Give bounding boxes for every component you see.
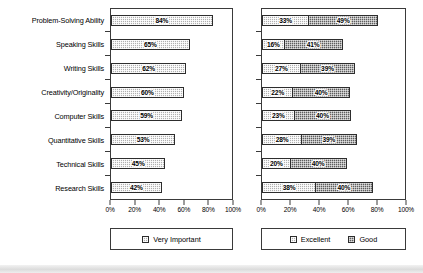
bar: 45%	[111, 158, 165, 169]
legend-excellent-good: Excellent Good	[261, 228, 406, 250]
bar-segment-excellent: 38%	[262, 182, 316, 193]
bar-segment-good: 39%	[301, 134, 357, 145]
x-axis: 0%20%40%60%80%100%	[261, 200, 406, 218]
legend-swatch-icon	[142, 236, 149, 243]
bar-row: 23%40%	[262, 104, 405, 128]
stacked-bar: 22%40%	[262, 87, 405, 98]
x-axis-tick	[348, 200, 349, 205]
bar-value-label: 49%	[337, 17, 350, 24]
x-axis-tick	[406, 200, 407, 205]
x-axis-tick	[290, 200, 291, 205]
category-label: Problem-Solving Ability	[4, 8, 108, 32]
bar: 62%	[111, 63, 186, 74]
x-axis-tick	[110, 200, 111, 205]
legend-item-good: Good	[348, 235, 377, 244]
bar: 65%	[111, 39, 190, 50]
bar-value-label: 62%	[142, 65, 155, 72]
bar-row: 33%49%	[262, 9, 405, 33]
bar-segment-excellent: 16%	[262, 39, 285, 50]
x-axis-tick-label: 100%	[225, 206, 241, 213]
stacked-bar: 38%40%	[262, 182, 405, 193]
category-label: Technical Skills	[4, 152, 108, 176]
category-label: Writing Skills	[4, 56, 108, 80]
footer-strip	[0, 265, 423, 273]
bar-value-label: 40%	[315, 89, 328, 96]
bar-segment-good: 40%	[290, 158, 347, 169]
x-axis-tick	[261, 200, 262, 205]
bar-rows: 84%65%62%60%59%53%45%42%	[111, 9, 232, 199]
bar: 59%	[111, 110, 182, 121]
bar-value-label: 40%	[312, 160, 325, 167]
legend-label: Very Important	[153, 235, 200, 244]
chart-panel-excellent-good: 33%49%16%41%27%39%22%40%23%40%28%39%20%4…	[243, 0, 423, 265]
bar-value-label: 42%	[130, 184, 143, 191]
bar-segment-excellent: 28%	[262, 134, 302, 145]
bar-value-label: 20%	[270, 160, 283, 167]
x-axis-tick	[377, 200, 378, 205]
charts-container: Problem-Solving Ability Speaking Skills …	[0, 0, 423, 265]
bar-segment-good: 40%	[292, 87, 349, 98]
x-axis-tick	[134, 200, 135, 205]
chart-panel-very-important: Problem-Solving Ability Speaking Skills …	[0, 0, 243, 265]
x-axis-tick-label: 80%	[371, 206, 384, 213]
category-label: Creativity/Originality	[4, 80, 108, 104]
legend-item-excellent: Excellent	[290, 235, 331, 244]
x-axis-tick	[208, 200, 209, 205]
legend-swatch-icon	[348, 236, 355, 243]
bar-value-label: 28%	[276, 136, 289, 143]
stacked-bar: 33%49%	[262, 15, 405, 26]
bar-row: 59%	[111, 104, 232, 128]
stacked-bar: 16%41%	[262, 39, 405, 50]
bar-value-label: 40%	[338, 184, 351, 191]
bar-value-label: 40%	[316, 112, 329, 119]
legend-label: Excellent	[301, 235, 331, 244]
bar-segment-good: 41%	[284, 39, 343, 50]
bar-value-label: 60%	[141, 89, 154, 96]
bar-row: 62%	[111, 57, 232, 81]
x-axis-tick-label: 20%	[128, 206, 141, 213]
legend-swatch-icon	[290, 236, 297, 243]
bar-row: 38%40%	[262, 175, 405, 199]
x-axis-tick	[233, 200, 234, 205]
bar-segment-excellent: 27%	[262, 63, 301, 74]
x-axis-tick-label: 40%	[313, 206, 326, 213]
bar-value-label: 59%	[140, 112, 153, 119]
x-axis-tick-label: 80%	[202, 206, 215, 213]
bar-row: 84%	[111, 9, 232, 33]
category-label: Quantitative Skills	[4, 128, 108, 152]
bar-value-label: 22%	[271, 89, 284, 96]
x-axis-tick	[159, 200, 160, 205]
bar-value-label: 27%	[275, 65, 288, 72]
bar: 53%	[111, 134, 175, 145]
plot-area-very-important: 84%65%62%60%59%53%45%42%	[110, 8, 233, 200]
bar-value-label: 33%	[279, 17, 292, 24]
bar-segment-good: 40%	[294, 110, 351, 121]
bar-value-label: 38%	[283, 184, 296, 191]
bar-segment-good: 39%	[300, 63, 356, 74]
bar: 84%	[111, 15, 213, 26]
x-axis-tick-label: 60%	[177, 206, 190, 213]
bar-rows: 33%49%16%41%27%39%22%40%23%40%28%39%20%4…	[262, 9, 405, 199]
bar-row: 28%39%	[262, 128, 405, 152]
bar-row: 65%	[111, 33, 232, 57]
bar-segment-excellent: 23%	[262, 110, 295, 121]
bar-value-label: 53%	[137, 136, 150, 143]
x-axis-tick-label: 40%	[153, 206, 166, 213]
bar-row: 53%	[111, 128, 232, 152]
bar-value-label: 41%	[307, 41, 320, 48]
category-label: Research Skills	[4, 176, 108, 200]
bar-segment-excellent: 22%	[262, 87, 293, 98]
bar-row: 16%41%	[262, 33, 405, 57]
x-axis: 0%20%40%60%80%100%	[110, 200, 233, 218]
bar-value-label: 23%	[272, 112, 285, 119]
bar-value-label: 84%	[155, 17, 168, 24]
bar: 42%	[111, 182, 162, 193]
x-axis-tick-label: 0%	[105, 206, 114, 213]
legend-very-important: Very Important	[110, 228, 233, 250]
plot-area-excellent-good: 33%49%16%41%27%39%22%40%23%40%28%39%20%4…	[261, 8, 406, 200]
stacked-bar: 20%40%	[262, 158, 405, 169]
legend-label: Good	[359, 235, 377, 244]
x-axis-tick	[319, 200, 320, 205]
stacked-bar: 23%40%	[262, 110, 405, 121]
x-axis-tick-label: 100%	[398, 206, 414, 213]
